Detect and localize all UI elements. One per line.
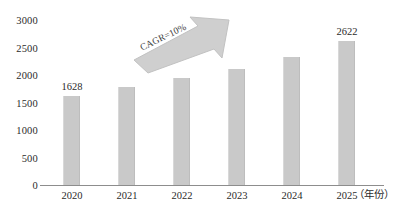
x-tick-label-2020: 2020	[44, 191, 100, 202]
y-tick-label: 1500	[0, 99, 38, 110]
x-axis-line	[40, 185, 384, 186]
bar-2021	[118, 87, 135, 185]
bar-2024	[283, 57, 300, 185]
x-tick-label-2024: 2024	[264, 191, 320, 202]
bar-2020	[63, 96, 80, 186]
y-tick-label: 0	[0, 181, 38, 192]
x-tick-label-2022: 2022	[154, 191, 210, 202]
bar-label-2025: 2622	[325, 27, 369, 38]
bar-label-2020: 1628	[50, 82, 94, 93]
x-axis-unit-label: （年份）	[354, 190, 394, 201]
y-tick-label: 1000	[0, 126, 38, 137]
bar-2022	[173, 78, 190, 185]
y-tick-label: 500	[0, 154, 38, 165]
bar-chart: 3000 2500 2000 1500 1000 500 0 1628 2622…	[0, 0, 407, 221]
bar-2023	[228, 69, 245, 185]
x-tick-label-2021: 2021	[99, 191, 155, 202]
y-tick-label: 3000	[0, 16, 38, 27]
x-tick-label-2023: 2023	[209, 191, 265, 202]
bar-2025	[338, 41, 355, 185]
y-axis: 3000 2500 2000 1500 1000 500 0	[0, 0, 38, 221]
y-tick-label: 2000	[0, 71, 38, 82]
y-tick-label: 2500	[0, 44, 38, 55]
